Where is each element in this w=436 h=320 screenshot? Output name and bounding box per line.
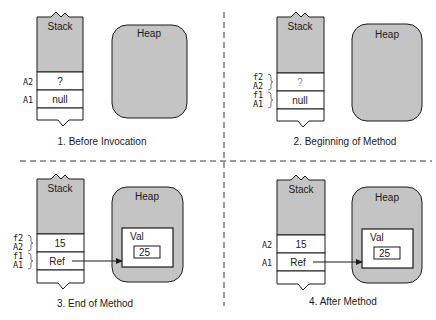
slot-value: 15 (295, 239, 307, 250)
heap-object-label: Val (370, 232, 384, 243)
brace-icon (28, 253, 33, 269)
heap-title: Heap (375, 29, 399, 40)
heap: Heap (352, 24, 422, 121)
stack: Stack 15 Ref f2 A2 f1 A1 (13, 174, 84, 289)
slot-value: null (52, 94, 68, 105)
slot-value: ? (297, 77, 303, 88)
heap-object-label: Val (130, 231, 144, 242)
heap: Heap Val 25 (112, 187, 183, 282)
stack-bottom-torn-edge (37, 108, 83, 126)
stack: Stack ? null f2 A2 f1 A1 (253, 12, 324, 127)
slot-label: A1 (253, 99, 263, 109)
slot-value: Ref (290, 257, 306, 268)
heap-object-value: 25 (139, 247, 151, 258)
panel-1-before-invocation: Stack ? null A2 A1 Heap 1. Before Invoca… (23, 12, 187, 147)
panel-caption: 3. End of Method (57, 298, 133, 309)
slot-label: A1 (13, 260, 23, 270)
slot-label: A1 (262, 258, 272, 268)
stack-bottom-torn-edge (37, 270, 84, 289)
panel-caption: 2. Beginning of Method (294, 136, 397, 147)
stack-bottom-torn-edge (277, 109, 324, 127)
panel-2-beginning-of-method: Stack ? null f2 A2 f1 A1 Heap 2. Beginni… (253, 12, 422, 147)
slot-value: Ref (49, 256, 65, 267)
stack-title: Stack (47, 21, 73, 32)
heap-title: Heap (137, 28, 161, 39)
stack-bottom-torn-edge (277, 271, 325, 290)
slot-label: A1 (23, 95, 33, 105)
panel-caption: 1. Before Invocation (58, 136, 147, 147)
slot-value: ? (57, 76, 63, 87)
panel-4-after-method: Stack 15 Ref A2 A1 Heap Val 25 4. After … (262, 175, 422, 307)
slot-label: A2 (262, 240, 272, 250)
stack-heap-diagram: Stack ? null A2 A1 Heap 1. Before Invoca… (0, 0, 436, 320)
panel-caption: 4. After Method (309, 296, 377, 307)
panel-3-end-of-method: Stack 15 Ref f2 A2 f1 A1 Heap Val 25 3. … (13, 174, 183, 309)
slot-value: 15 (54, 238, 66, 249)
brace-icon (268, 74, 273, 90)
brace-icon (268, 92, 273, 108)
heap-title: Heap (375, 192, 399, 203)
heap: Heap Val 25 (352, 187, 422, 283)
stack: Stack ? null A2 A1 (23, 12, 83, 126)
stack-title: Stack (47, 183, 73, 194)
slot-value: null (292, 95, 308, 106)
slot-label: A2 (23, 77, 33, 87)
stack: Stack 15 Ref A2 A1 (262, 175, 325, 290)
heap-object-value: 25 (379, 248, 391, 259)
heap-title: Heap (135, 191, 159, 202)
stack-title: Stack (287, 21, 313, 32)
heap: Heap (112, 25, 187, 118)
brace-icon (28, 235, 33, 251)
stack-title: Stack (288, 184, 314, 195)
